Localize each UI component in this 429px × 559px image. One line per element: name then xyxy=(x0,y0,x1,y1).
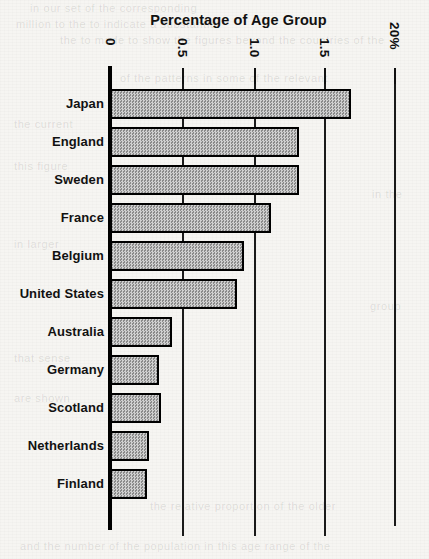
category-label-germany: Germany xyxy=(47,362,104,377)
bar-belgium xyxy=(110,241,244,271)
category-label-finland: Finland xyxy=(57,476,104,491)
bar-japan xyxy=(110,89,351,119)
tick-label-0-5: 0.5 xyxy=(175,38,190,58)
category-label-united-states: United States xyxy=(20,286,104,301)
category-label-japan: Japan xyxy=(66,96,104,111)
category-label-netherlands: Netherlands xyxy=(28,438,104,453)
tick-label-1-0: 1.0 xyxy=(247,38,262,58)
category-label-scotland: Scotland xyxy=(48,400,104,415)
tick-mark-1-5 xyxy=(324,68,326,84)
bar-australia xyxy=(110,317,172,347)
tick-mark-1-0 xyxy=(254,68,256,84)
bar-netherlands xyxy=(110,431,149,461)
ghost-text: group xyxy=(370,300,401,312)
bar-sweden xyxy=(110,165,299,195)
tick-mark-20pct xyxy=(394,68,396,84)
category-label-france: France xyxy=(61,210,104,225)
bar-germany xyxy=(110,355,159,385)
ghost-text: in the xyxy=(372,188,403,200)
ghost-text: the relative proportion of the older xyxy=(150,500,336,512)
bar-scotland xyxy=(110,393,161,423)
bar-united-states xyxy=(110,279,237,309)
bar-england xyxy=(110,127,299,157)
category-label-australia: Australia xyxy=(47,324,104,339)
category-label-england: England xyxy=(52,134,104,149)
tick-label-0: 0 xyxy=(103,38,118,46)
ghost-text: of the patterns in some of the relevant xyxy=(120,72,328,84)
bar-france xyxy=(110,203,271,233)
category-label-belgium: Belgium xyxy=(52,248,104,263)
tick-label-1-5: 1.5 xyxy=(317,38,332,58)
tick-mark-0-5 xyxy=(182,68,184,84)
chart-page: in our set of the corresponding million … xyxy=(0,0,429,559)
gridline-1-5 xyxy=(324,84,326,536)
gridline-20pct xyxy=(394,84,396,526)
category-label-sweden: Sweden xyxy=(54,172,104,187)
tick-label-20pct: 20% xyxy=(387,22,402,50)
bar-finland xyxy=(110,469,147,499)
